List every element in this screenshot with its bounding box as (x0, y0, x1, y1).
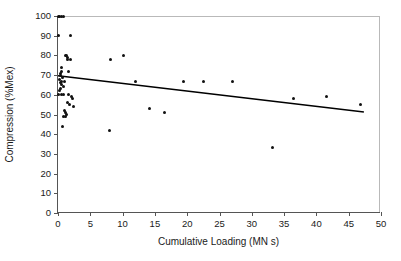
x-tick-label: 45 (343, 219, 354, 229)
y-tick-label: 90 (40, 31, 51, 41)
data-point (68, 103, 71, 106)
x-tick (252, 212, 253, 216)
data-point (62, 85, 65, 88)
data-point (134, 80, 137, 83)
data-point (359, 103, 362, 106)
data-point (182, 80, 185, 83)
data-point (58, 89, 61, 92)
data-point (71, 97, 74, 100)
data-point (69, 34, 72, 37)
data-point (67, 70, 70, 73)
data-point (231, 80, 234, 83)
x-tick-label: 50 (376, 219, 387, 229)
data-points (58, 16, 380, 212)
x-tick (187, 212, 188, 216)
data-point (61, 125, 64, 128)
data-point (108, 129, 111, 132)
data-point (202, 80, 205, 83)
x-tick (381, 212, 382, 216)
scatter-chart-figure: 0102030405060708090100 05101520253035404… (0, 0, 401, 261)
x-tick-label: 30 (247, 219, 258, 229)
x-tick-label: 10 (117, 219, 128, 229)
x-axis-title: Cumulative Loading (MN s) (57, 236, 380, 247)
x-tick-label: 40 (311, 219, 322, 229)
y-tick-label: 0 (46, 208, 51, 218)
plot-area: 0102030405060708090100 05101520253035404… (57, 16, 380, 213)
data-point (62, 93, 65, 96)
y-tick-label: 80 (40, 51, 51, 61)
data-point (325, 95, 328, 98)
data-point (69, 58, 72, 61)
x-tick-label: 5 (88, 219, 93, 229)
y-tick-label: 30 (40, 149, 51, 159)
x-tick (123, 212, 124, 216)
y-tick-label: 20 (40, 169, 51, 179)
y-tick-label: 10 (40, 189, 51, 199)
x-tick (58, 212, 59, 216)
data-point (109, 58, 112, 61)
y-tick-label: 100 (35, 11, 51, 21)
data-point (60, 66, 63, 69)
x-tick (284, 212, 285, 216)
x-tick-label: 15 (150, 219, 161, 229)
x-tick (220, 212, 221, 216)
data-point (62, 15, 65, 18)
x-tick (316, 212, 317, 216)
data-point (271, 146, 274, 149)
x-tick-label: 0 (55, 219, 60, 229)
y-tick-label: 50 (40, 110, 51, 120)
x-tick-label: 35 (279, 219, 290, 229)
y-axis-title: Compression (%Mex) (2, 16, 16, 213)
y-tick-label: 70 (40, 70, 51, 80)
x-tick (90, 212, 91, 216)
data-point (148, 107, 151, 110)
y-tick-label: 60 (40, 90, 51, 100)
data-point (57, 34, 60, 37)
y-tick-label: 40 (40, 129, 51, 139)
x-tick-label: 25 (214, 219, 225, 229)
data-point (63, 80, 66, 83)
x-tick (155, 212, 156, 216)
data-point (163, 111, 166, 114)
data-point (61, 76, 64, 79)
data-point (292, 97, 295, 100)
x-tick-label: 20 (182, 219, 193, 229)
data-point (72, 105, 75, 108)
x-tick (349, 212, 350, 216)
data-point (122, 54, 125, 57)
